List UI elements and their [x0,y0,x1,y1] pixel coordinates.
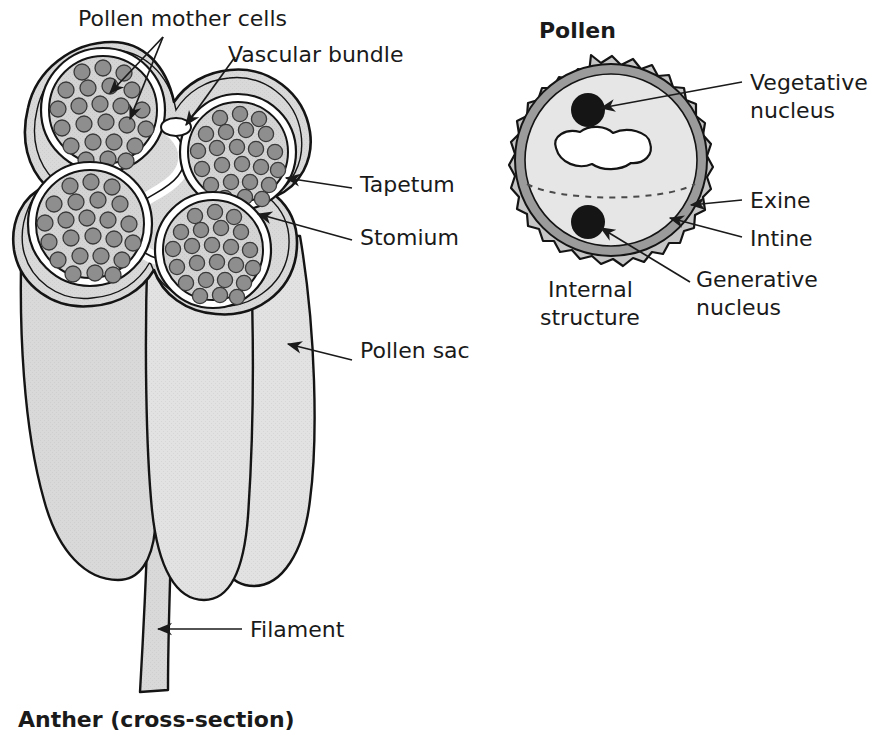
vacuole-shape [555,127,651,169]
label-pollen-sac: Pollen sac [360,338,470,363]
loculus-upper-left [41,48,165,172]
loculus-upper-right [180,94,296,210]
vegetative-nucleus-shape [571,93,605,127]
label-pollen-mother-cells: Pollen mother cells [78,6,287,31]
figure-canvas: Pollen mother cells Vascular bundle Tape… [0,0,870,737]
title-pollen: Pollen [539,18,616,43]
label-vascular-bundle: Vascular bundle [228,42,403,67]
pollen-diagram: Pollen Vegetative nucleus Exine Intine G… [509,18,868,330]
loculus-lower-right [155,192,271,308]
vascular-bundle-shape [161,118,191,136]
label-vegetative-nucleus-line2: nucleus [750,98,835,123]
label-generative-nucleus-line2: nucleus [696,295,781,320]
label-vegetative-nucleus-line1: Vegetative [750,70,868,95]
label-tapetum: Tapetum [359,172,455,197]
label-generative-nucleus-line1: Generative [696,267,818,292]
loculus-lower-left [28,162,152,286]
label-filament: Filament [250,617,345,642]
caption-anther: Anther (cross-section) [18,707,295,732]
botany-diagram: Pollen mother cells Vascular bundle Tape… [0,0,870,737]
subtitle-internal-structure-line2: structure [540,305,640,330]
label-stomium: Stomium [360,225,459,250]
subtitle-internal-structure-line1: Internal [548,277,633,302]
label-exine: Exine [750,188,811,213]
generative-nucleus-shape [571,205,605,239]
anther-diagram: Pollen mother cells Vascular bundle Tape… [13,6,469,732]
label-intine: Intine [750,226,813,251]
